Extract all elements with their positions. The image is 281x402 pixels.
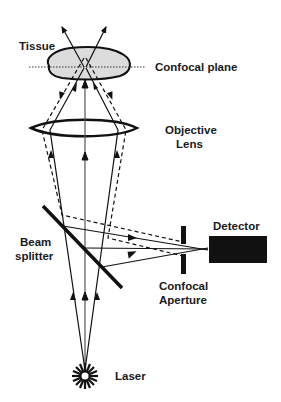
label-lens: Lens xyxy=(176,138,203,150)
beam-splitter xyxy=(43,206,122,288)
illumination-rays xyxy=(50,68,118,370)
label-confocal: Confocal xyxy=(159,280,208,292)
confocal-microscope-diagram: Tissue Confocal plane Objective Lens Bea… xyxy=(0,0,281,402)
detector xyxy=(209,236,267,263)
label-objective: Objective xyxy=(165,124,217,136)
label-confocal-plane: Confocal plane xyxy=(155,61,237,73)
laser-icon xyxy=(72,363,98,389)
label-tissue: Tissue xyxy=(19,40,55,52)
label-laser: Laser xyxy=(115,370,146,382)
confocal-aperture xyxy=(181,226,186,274)
label-aperture: Aperture xyxy=(159,294,207,306)
label-beam: Beam xyxy=(20,236,51,248)
label-detector: Detector xyxy=(213,220,260,232)
label-splitter: splitter xyxy=(15,250,54,262)
